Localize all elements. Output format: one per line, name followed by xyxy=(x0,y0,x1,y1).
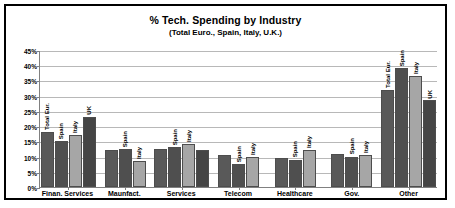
bar-value-label: Italy xyxy=(410,62,421,74)
bar-value-label: Spain xyxy=(290,141,301,157)
bar[interactable] xyxy=(246,157,259,187)
bar-group: Total Eur.SpainItalyUK xyxy=(380,51,437,187)
bar-slot xyxy=(154,51,167,187)
chart-frame: % Tech. Spending by Industry (Total Euro… xyxy=(4,4,447,200)
bar-value-label: Total Eur. xyxy=(42,103,53,130)
bar-group: SpainItaly xyxy=(210,51,267,187)
bar-value-label: Italy xyxy=(360,141,371,153)
bar[interactable] xyxy=(395,68,408,187)
x-axis-category-label: Telecom xyxy=(210,190,267,197)
bar-slot: Spain xyxy=(345,51,358,187)
bar-slot xyxy=(105,51,118,187)
bar-group: SpainItaly xyxy=(97,51,154,187)
bar-value-label: Italy xyxy=(304,136,315,148)
bar-value-label: Spain xyxy=(233,146,244,162)
bar[interactable] xyxy=(69,135,82,187)
y-axis-tick-label: 0% xyxy=(28,185,37,192)
bar-slot: Spain xyxy=(55,51,68,187)
y-axis-tick-label: 40% xyxy=(24,63,37,70)
bar-slot: Spain xyxy=(289,51,302,187)
bar-slot xyxy=(196,51,209,187)
bar[interactable] xyxy=(83,117,96,187)
bar[interactable] xyxy=(275,158,288,187)
bar[interactable] xyxy=(381,90,394,187)
bar-value-label: Italy xyxy=(134,147,145,159)
bar[interactable] xyxy=(423,100,436,187)
x-axis-category-label: Services xyxy=(153,190,210,197)
bar[interactable] xyxy=(119,149,132,187)
bar-slot: Italy xyxy=(359,51,372,187)
bar[interactable] xyxy=(182,144,195,187)
bar-groups: Total Eur.SpainItalyUKSpainItalySpainIta… xyxy=(40,51,437,187)
bar-slot: Italy xyxy=(303,51,316,187)
bar-slot: Spain xyxy=(232,51,245,187)
bar-value-label: Spain xyxy=(120,131,131,147)
y-axis-tick-mark xyxy=(37,188,40,189)
bar-slot: Italy xyxy=(133,51,146,187)
bar[interactable] xyxy=(289,160,302,187)
bar-value-label: Italy xyxy=(247,143,258,155)
y-axis-tick-label: 5% xyxy=(28,169,37,176)
bar-value-label: Spain xyxy=(56,123,67,139)
bar[interactable] xyxy=(331,154,344,187)
bar-slot: Italy xyxy=(246,51,259,187)
x-axis-category-label: Gov. xyxy=(323,190,380,197)
x-axis-category-label: Finan. Services xyxy=(39,190,96,197)
bar[interactable] xyxy=(218,155,231,187)
bar-value-label: Italy xyxy=(183,130,194,142)
bar-group: SpainItaly xyxy=(153,51,210,187)
page-title: % Tech. Spending by Industry xyxy=(6,14,445,27)
bar[interactable] xyxy=(105,150,118,187)
bar-slot: Spain xyxy=(168,51,181,187)
bar-value-label: Spain xyxy=(346,138,357,154)
bar-slot: UK xyxy=(83,51,96,187)
bar[interactable] xyxy=(41,132,54,187)
bar-slot: Italy xyxy=(69,51,82,187)
bar-slot: Total Eur. xyxy=(41,51,54,187)
bar[interactable] xyxy=(303,150,316,187)
bar-slot: Italy xyxy=(409,51,422,187)
bar-slot xyxy=(275,51,288,187)
chart-subtitle: (Total Euro., Spain, Italy, U.K.) xyxy=(6,27,445,38)
bar[interactable] xyxy=(196,150,209,187)
bar-slot: Spain xyxy=(119,51,132,187)
x-axis-category-label: Healthcare xyxy=(266,190,323,197)
y-axis-tick-label: 10% xyxy=(24,154,37,161)
bar-slot: Total Eur. xyxy=(381,51,394,187)
y-axis-tick-label: 15% xyxy=(24,139,37,146)
bar-slot xyxy=(331,51,344,187)
bar-slot: Spain xyxy=(395,51,408,187)
bar-value-label: Italy xyxy=(70,121,81,133)
bar-group: SpainItaly xyxy=(267,51,324,187)
bar[interactable] xyxy=(168,147,181,187)
plot-area: 45%40%35%30%25%20%15%10%5%0% Total Eur.S… xyxy=(39,51,437,188)
bar-value-label: Spain xyxy=(169,129,180,145)
y-axis-tick-label: 30% xyxy=(24,93,37,100)
bar-slot: Italy xyxy=(182,51,195,187)
bar[interactable] xyxy=(409,76,422,187)
bar-group: SpainItaly xyxy=(324,51,381,187)
bar[interactable] xyxy=(232,164,245,187)
bar-value-label: Spain xyxy=(396,50,407,66)
bar-value-label: UK xyxy=(84,106,95,115)
x-axis-category-label: Maunfact. xyxy=(96,190,153,197)
bar-value-label: UK xyxy=(424,90,435,99)
x-axis-category-labels: Finan. ServicesMaunfact.ServicesTelecomH… xyxy=(39,190,437,197)
chart-title-block: % Tech. Spending by Industry (Total Euro… xyxy=(6,14,445,38)
y-axis-tick-label: 25% xyxy=(24,108,37,115)
bar[interactable] xyxy=(133,161,146,187)
bar-value-label: Total Eur. xyxy=(382,61,393,88)
y-axis-tick-label: 20% xyxy=(24,124,37,131)
x-axis-category-label: Other xyxy=(380,190,437,197)
bar[interactable] xyxy=(345,157,358,187)
bar[interactable] xyxy=(154,149,167,187)
y-axis-tick-label: 35% xyxy=(24,78,37,85)
bar[interactable] xyxy=(359,155,372,187)
bar-slot: UK xyxy=(423,51,436,187)
bar-slot xyxy=(218,51,231,187)
y-axis-tick-label: 45% xyxy=(24,48,37,55)
bar[interactable] xyxy=(55,141,68,187)
bar-group: Total Eur.SpainItalyUK xyxy=(40,51,97,187)
